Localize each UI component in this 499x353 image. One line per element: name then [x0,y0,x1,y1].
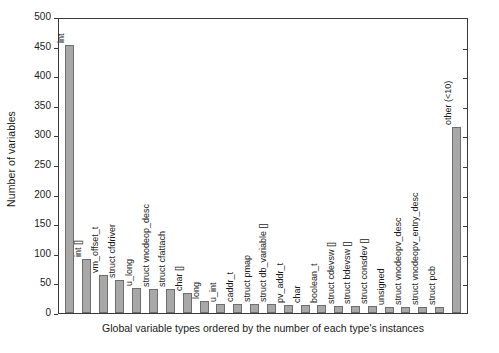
bar-category-label: int [] [74,240,83,257]
bar-category-label: unsigned [377,268,386,305]
y-axis-right-tick-mark [463,108,467,109]
bar-slot: struct pcb [431,19,448,313]
y-axis-right-tick-mark [463,256,467,257]
bar-slot: long [196,19,213,313]
bar: u_long [132,288,141,313]
y-axis-tick-label: 500 [34,11,51,22]
bar-category-label: struct db_variable [] [259,224,268,303]
bar-slot: int [61,19,78,313]
bar: struct consdev [] [368,306,377,313]
bar-chart: Number of variables 05010015020025030035… [0,0,499,353]
bar: vm_offset_t [99,275,108,313]
bar: u_int [216,304,225,313]
y-axis-tick-label: 400 [34,70,51,81]
bar-slot: pv_addr_t [280,19,297,313]
y-axis: 050100150200250300350400450500 [22,14,58,318]
bar-slot: char [] [179,19,196,313]
y-axis-tick-label: 100 [34,248,51,259]
bar: struct bdevsw [] [351,306,360,313]
bar: pv_addr_t [284,305,293,313]
bar: unsigned [385,307,394,314]
x-axis-title: Global variable types ordered by the num… [58,322,468,334]
bar-category-label: struct pcb [428,265,437,304]
bar: struct vnodeopv_desc [401,307,410,314]
bar-category-label: struct cdevsw [] [327,242,336,304]
bar-category-label: boolean_t [310,264,319,304]
y-axis-tick-label: 450 [34,41,51,52]
bar: int [65,45,74,313]
y-axis-tick-label: 350 [34,100,51,111]
y-axis-right-tick-mark [463,167,467,168]
bar-category-label: struct vnodeop_desc [142,204,151,287]
bar-category-label: char [293,286,302,304]
y-axis-tick-label: 250 [34,159,51,170]
bar: struct vnodeop_desc [149,289,158,313]
bar-category-label: struct cfattach [158,231,167,287]
y-axis-tick-label: 150 [34,218,51,229]
bar: struct cdevsw [] [334,306,343,313]
bar-category-label: struct bdevsw [] [343,241,352,304]
bar: boolean_t [317,305,326,313]
bar: struct pcb [435,307,444,314]
y-axis-right-tick-mark [463,78,467,79]
bar-category-label: struct cfdriver [108,224,117,278]
bar: long [200,301,209,313]
bar-series: intint []vm_offset_tstruct cfdriveru_lon… [59,19,467,313]
y-axis-title: Number of variables [0,0,22,318]
bar: struct vnodeopv_entry_desc [418,307,427,314]
bar-category-label: u_long [125,259,134,286]
bar: caddr_t [233,304,242,313]
bar-slot: other (<10) [448,19,465,313]
bar-category-label: struct vnodeopv_entry_desc [411,192,420,305]
y-axis-tick-label: 200 [34,189,51,200]
bar-category-label: struct vnodeopv_desc [394,217,403,305]
y-axis-tick-label: 300 [34,129,51,140]
bar: struct pmap [250,304,259,313]
bar: other (<10) [452,127,461,313]
bar-slot: u_int [212,19,229,313]
y-axis-title-text: Number of variables [5,111,17,207]
bar-category-label: struct pmap [243,255,252,302]
y-axis-right-tick-mark [463,49,467,50]
plot-area: intint []vm_offset_tstruct cfdriveru_lon… [58,18,468,314]
y-axis-right-tick-mark [463,137,467,138]
bar-category-label: other (<10) [444,80,453,124]
y-axis-tick-mark [54,314,58,315]
y-axis-tick-label: 50 [40,277,51,288]
bar-category-label: u_int [209,282,218,302]
bar-category-label: vm_offset_t [91,226,100,272]
y-axis-right-tick-mark [463,226,467,227]
bar-category-label: pv_addr_t [276,263,285,303]
y-axis-tick-label: 0 [45,307,51,318]
bar: char [301,305,310,313]
y-axis-right-tick-mark [463,285,467,286]
y-axis-right-tick-mark [463,197,467,198]
bar-category-label: caddr_t [226,272,235,302]
bar-category-label: char [] [175,266,184,291]
bar: struct cfattach [166,289,175,313]
bar-category-label: struct consdev [] [360,238,369,304]
bar: struct db_variable [] [267,304,276,313]
bar-category-label: int [57,33,66,43]
bar-category-label: long [192,282,201,299]
